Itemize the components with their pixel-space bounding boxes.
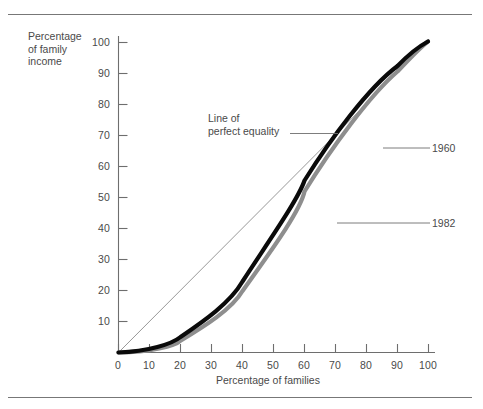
y-axis-title-line1: Percentage — [28, 30, 82, 43]
annotation-equality-line1: Line of — [208, 112, 279, 125]
y-tick-label-20: 20 — [84, 284, 110, 296]
x-tick-label-80: 80 — [354, 359, 378, 371]
y-axis-title-line3: income — [28, 55, 82, 68]
y-tick-label-60: 60 — [84, 160, 110, 172]
annotation-series-1982: 1982 — [432, 217, 455, 229]
x-tick-label-100: 100 — [416, 359, 440, 371]
x-tick-label-40: 40 — [230, 359, 254, 371]
y-tick-label-70: 70 — [84, 129, 110, 141]
x-tick-label-60: 60 — [292, 359, 316, 371]
y-tick-label-100: 100 — [84, 36, 110, 48]
x-tick-label-70: 70 — [323, 359, 347, 371]
x-tick-label-10: 10 — [137, 359, 161, 371]
x-tick-label-90: 90 — [385, 359, 409, 371]
y-tick-label-40: 40 — [84, 222, 110, 234]
annotation-perfect-equality: Line of perfect equality — [208, 112, 279, 137]
y-axis-ticks — [119, 43, 128, 322]
x-tick-label-20: 20 — [168, 359, 192, 371]
y-tick-label-80: 80 — [84, 98, 110, 110]
y-tick-label-50: 50 — [84, 191, 110, 203]
lorenz-curve-figure: Percentage of family income Percentage o… — [0, 0, 483, 409]
x-tick-label-50: 50 — [261, 359, 285, 371]
y-tick-label-10: 10 — [84, 315, 110, 327]
y-tick-label-30: 30 — [84, 253, 110, 265]
y-axis-title-line2: of family — [28, 43, 82, 56]
x-axis-title: Percentage of families — [216, 374, 320, 386]
y-axis-title: Percentage of family income — [28, 30, 82, 68]
annotation-equality-line2: perfect equality — [208, 125, 279, 138]
x-tick-label-30: 30 — [199, 359, 223, 371]
x-tick-label-0: 0 — [106, 359, 130, 371]
y-tick-label-90: 90 — [84, 67, 110, 79]
annotation-series-1960: 1960 — [432, 142, 455, 154]
